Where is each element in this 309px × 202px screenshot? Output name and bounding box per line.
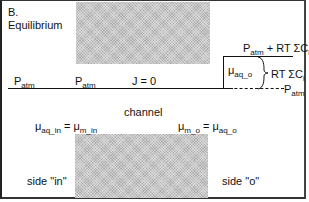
side-out-label: side "o" xyxy=(222,175,259,187)
pressure-upper-label: Patm + RT ΣCi xyxy=(243,42,309,59)
side-in-label: side "in" xyxy=(27,175,67,187)
channel-label: channel xyxy=(124,106,163,118)
equation-out: μm_o = μaq_o xyxy=(178,120,237,137)
mu-aq-o-label: μaq_o xyxy=(228,64,252,81)
equation-in: μaq_in = μm_in xyxy=(35,120,97,137)
pressure-lower-label: Patm xyxy=(284,83,305,100)
brace-icon xyxy=(0,0,309,202)
